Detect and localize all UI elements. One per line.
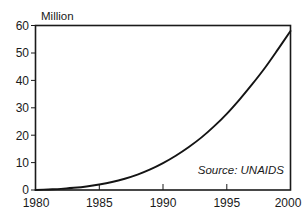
y-tick-label-40: 40: [16, 74, 30, 88]
chart-container: 60 50 40 30 20 10 0 1980 1985 1990 1995 …: [0, 0, 307, 223]
x-tick-label-2000: 2000: [275, 196, 302, 210]
y-axis-label: Million: [41, 10, 74, 22]
y-tick-label-30: 30: [16, 101, 30, 115]
x-tick-label-1985: 1985: [86, 196, 113, 210]
source-annotation: Source: UNAIDS: [198, 164, 285, 176]
y-tick-label-20: 20: [16, 129, 30, 143]
y-tick-label-50: 50: [16, 46, 30, 60]
y-tick-label-60: 60: [16, 19, 30, 33]
y-tick-label-10: 10: [16, 156, 30, 170]
x-tick-label-1990: 1990: [150, 196, 177, 210]
line-chart: 60 50 40 30 20 10 0 1980 1985 1990 1995 …: [0, 0, 307, 223]
x-tick-label-1995: 1995: [213, 196, 240, 210]
x-tick-label-1980: 1980: [23, 196, 50, 210]
